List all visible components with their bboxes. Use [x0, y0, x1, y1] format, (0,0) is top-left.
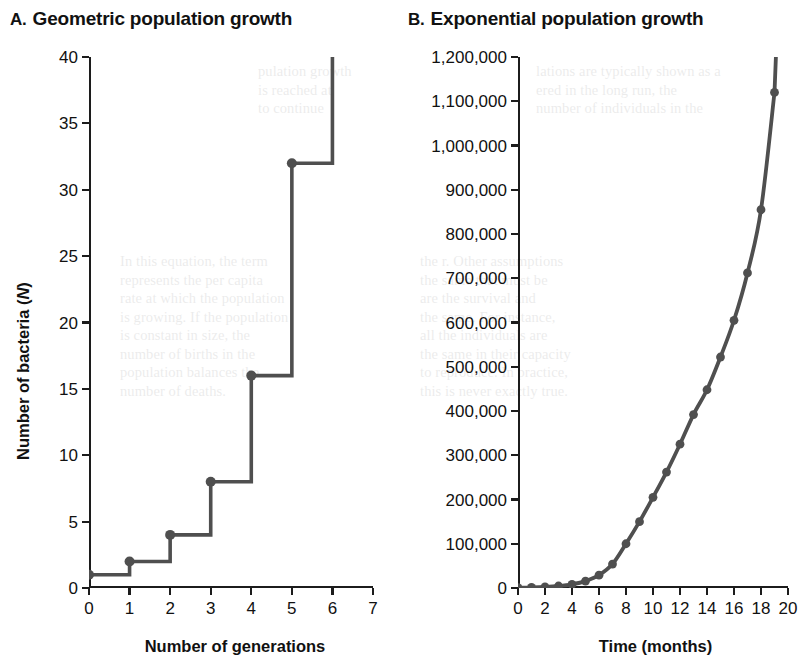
- tick-label-y: 1,100,000: [431, 93, 507, 110]
- tick-mark-y: [511, 454, 518, 456]
- data-point-marker: [689, 410, 698, 419]
- tick-mark-x: [598, 588, 600, 595]
- tick-label-y: 40: [59, 49, 78, 66]
- data-point-marker: [716, 353, 725, 362]
- tick-mark-y: [82, 321, 89, 323]
- tick-mark-y: [511, 277, 518, 279]
- tick-mark-x: [517, 588, 519, 595]
- tick-mark-y: [82, 521, 89, 523]
- tick-mark-y: [82, 56, 89, 58]
- tick-label-x: 12: [671, 600, 690, 617]
- tick-mark-y: [511, 233, 518, 235]
- panel-a-y-axis-title-suffix: ): [14, 282, 32, 288]
- panel-a-title-text: Geometric population growth: [33, 8, 293, 29]
- tick-mark-x: [733, 588, 735, 595]
- tick-label-y: 0: [69, 580, 78, 597]
- tick-mark-x: [250, 588, 252, 595]
- tick-label-x: 20: [779, 600, 798, 617]
- tick-label-y: 200,000: [446, 491, 507, 508]
- tick-mark-x: [291, 588, 293, 595]
- tick-mark-y: [511, 189, 518, 191]
- tick-mark-y: [82, 388, 89, 390]
- panel-a-y-axis-title: Number of bacteria (N): [14, 282, 33, 460]
- panel-b-plot-area: 0100,000200,000300,000400,000500,000600,…: [518, 57, 788, 588]
- data-point-marker: [676, 440, 685, 449]
- data-point-marker: [581, 577, 590, 586]
- tick-label-x: 6: [328, 600, 337, 617]
- tick-label-y: 1,200,000: [431, 49, 507, 66]
- tick-label-y: 800,000: [446, 226, 507, 243]
- tick-label-x: 2: [540, 600, 549, 617]
- tick-mark-y: [511, 100, 518, 102]
- tick-mark-y: [82, 454, 89, 456]
- tick-label-y: 25: [59, 248, 78, 265]
- tick-label-y: 600,000: [446, 314, 507, 331]
- tick-mark-y: [511, 498, 518, 500]
- panel-b-data-series: [518, 57, 788, 588]
- tick-label-y: 900,000: [446, 181, 507, 198]
- tick-label-y: 500,000: [446, 358, 507, 375]
- tick-mark-y: [511, 56, 518, 58]
- tick-label-x: 4: [567, 600, 576, 617]
- tick-label-x: 6: [594, 600, 603, 617]
- panel-b-x-axis-title: Time (months): [400, 637, 801, 656]
- data-point-marker: [125, 556, 135, 566]
- tick-mark-x: [372, 588, 374, 595]
- panel-a-letter: A.: [10, 10, 27, 29]
- tick-mark-y: [82, 122, 89, 124]
- data-point-marker: [568, 580, 577, 589]
- data-point-marker: [527, 583, 536, 592]
- panel-a-x-axis-title: Number of generations: [0, 637, 400, 656]
- tick-mark-x: [210, 588, 212, 595]
- tick-label-y: 100,000: [446, 535, 507, 552]
- tick-label-y: 20: [59, 314, 78, 331]
- figure-root: pulation growth is reached at to continu…: [0, 0, 801, 664]
- data-point-marker: [743, 269, 752, 278]
- tick-label-x: 0: [513, 600, 522, 617]
- tick-mark-y: [511, 321, 518, 323]
- tick-label-x: 0: [84, 600, 93, 617]
- data-point-marker: [770, 88, 779, 97]
- tick-label-x: 2: [165, 600, 174, 617]
- panel-a-y-axis-title-symbol: N: [14, 288, 32, 300]
- data-point-marker: [703, 385, 712, 394]
- tick-mark-x: [706, 588, 708, 595]
- data-point-marker: [554, 582, 563, 591]
- panel-a-data-series: [89, 57, 373, 588]
- data-point-marker: [595, 571, 604, 580]
- tick-mark-x: [169, 588, 171, 595]
- tick-label-x: 16: [725, 600, 744, 617]
- tick-mark-x: [128, 588, 130, 595]
- data-point-marker: [757, 205, 766, 214]
- tick-mark-y: [511, 410, 518, 412]
- tick-label-y: 10: [59, 447, 78, 464]
- tick-label-x: 5: [287, 600, 296, 617]
- tick-label-y: 15: [59, 380, 78, 397]
- data-point-marker: [608, 560, 617, 569]
- tick-label-x: 8: [621, 600, 630, 617]
- data-point-marker: [287, 158, 297, 168]
- panel-a-plot-area: 0510152025303540 01234567: [89, 57, 373, 588]
- tick-mark-y: [511, 144, 518, 146]
- tick-mark-x: [571, 588, 573, 595]
- tick-mark-y: [82, 189, 89, 191]
- tick-mark-x: [625, 588, 627, 595]
- panel-a-y-axis-title-prefix: Number of bacteria (: [14, 300, 32, 460]
- tick-label-y: 1,000,000: [431, 137, 507, 154]
- data-point-marker: [206, 477, 216, 487]
- tick-label-x: 3: [206, 600, 215, 617]
- tick-mark-x: [787, 588, 789, 595]
- data-point-marker: [635, 517, 644, 526]
- data-point-marker: [662, 468, 671, 477]
- tick-label-x: 7: [368, 600, 377, 617]
- panel-b-exponential-growth: B.Exponential population growth Number o…: [400, 0, 801, 664]
- panel-a-title: A.Geometric population growth: [10, 8, 292, 30]
- tick-mark-y: [511, 366, 518, 368]
- data-point-marker: [84, 570, 94, 580]
- tick-label-x: 4: [247, 600, 256, 617]
- data-point-marker: [165, 530, 175, 540]
- data-point-marker: [622, 539, 631, 548]
- tick-mark-x: [88, 588, 90, 595]
- tick-label-y: 300,000: [446, 447, 507, 464]
- panel-b-letter: B.: [408, 10, 425, 29]
